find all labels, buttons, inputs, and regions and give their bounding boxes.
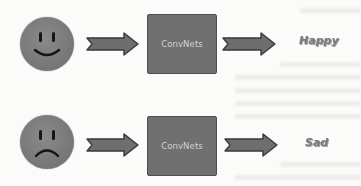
convnets-label: ConvNets [161,39,203,49]
output-label-happy: Happy [299,34,339,47]
convnets-label: ConvNets [161,141,203,151]
convnets-box: ConvNets [147,14,217,74]
output-label-sad: Sad [305,136,328,149]
arrow-right-icon [222,32,277,56]
convnets-box: ConvNets [147,116,217,176]
happy-face-icon [20,17,74,71]
arrow-right-icon [86,133,140,157]
arrow-right-icon [224,133,279,157]
sad-face-icon [20,115,74,169]
arrow-right-icon [86,32,140,56]
